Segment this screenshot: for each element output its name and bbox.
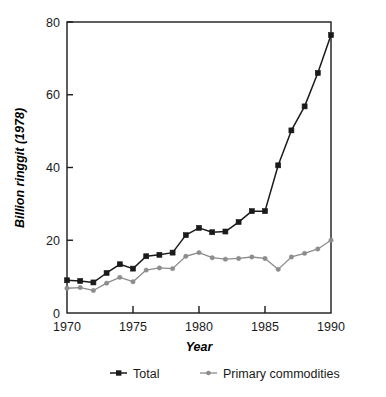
x-tick-label: 1985 — [251, 320, 279, 334]
legend-item-1[interactable]: Total — [110, 367, 159, 381]
data-point-marker — [302, 104, 307, 109]
data-point-marker — [289, 255, 293, 259]
data-point-marker — [236, 220, 241, 225]
data-point-marker — [223, 229, 228, 234]
data-point-marker — [263, 209, 268, 214]
data-point-marker — [78, 278, 83, 283]
chart-legend: TotalPrimary commodities — [110, 367, 340, 381]
data-point-marker — [250, 255, 254, 259]
data-point-marker — [223, 257, 227, 261]
legend-label: Total — [133, 367, 159, 381]
data-point-marker — [118, 275, 122, 279]
data-point-marker — [210, 230, 215, 235]
data-point-marker — [263, 256, 267, 260]
data-point-marker — [144, 254, 149, 259]
data-point-marker — [131, 266, 136, 271]
data-point-marker — [104, 281, 108, 285]
data-point-marker — [91, 280, 96, 285]
data-point-marker — [65, 278, 70, 283]
x-tick-label: 1990 — [317, 320, 345, 334]
chart-container: 020406080 19701975198019851990 Billion r… — [0, 0, 386, 397]
y-tick-label: 0 — [53, 307, 60, 321]
data-point-marker — [289, 128, 294, 133]
data-point-marker — [78, 285, 82, 289]
data-point-marker — [91, 288, 95, 292]
x-tick-label: 1980 — [185, 320, 213, 334]
data-point-marker — [157, 266, 161, 270]
data-point-marker — [65, 286, 69, 290]
data-point-marker — [197, 225, 202, 230]
y-tick-label: 20 — [46, 234, 60, 248]
y-axis-title: Billion ringgit (1978) — [13, 108, 27, 228]
data-point-marker — [117, 262, 122, 267]
data-point-marker — [315, 70, 320, 75]
data-point-marker — [302, 251, 306, 255]
legend-item-2[interactable]: Primary commodities — [200, 367, 340, 381]
plot-area-border — [67, 22, 331, 313]
y-tick-label: 80 — [46, 16, 60, 30]
data-point-marker — [170, 250, 175, 255]
data-point-marker — [183, 233, 188, 238]
data-point-marker — [249, 209, 254, 214]
x-axis-title: Year — [186, 340, 214, 354]
data-point-marker — [197, 250, 201, 254]
line-chart: 020406080 19701975198019851990 Billion r… — [0, 0, 386, 397]
data-point-marker — [329, 33, 334, 38]
x-tick-label: 1970 — [53, 320, 81, 334]
y-tick-label: 40 — [46, 161, 60, 175]
data-point-marker — [329, 238, 333, 242]
plot-frame — [67, 22, 331, 313]
data-point-marker — [276, 163, 281, 168]
data-point-marker — [210, 256, 214, 260]
data-point-marker — [170, 266, 174, 270]
legend-marker — [116, 370, 121, 375]
data-point-marker — [131, 280, 135, 284]
data-point-marker — [184, 254, 188, 258]
data-point-marker — [236, 256, 240, 260]
y-tick-label: 60 — [46, 88, 60, 102]
legend-marker — [206, 371, 211, 376]
data-point-marker — [144, 268, 148, 272]
data-point-marker — [276, 267, 280, 271]
data-point-marker — [104, 270, 109, 275]
x-tick-label: 1975 — [119, 320, 147, 334]
legend-label: Primary commodities — [223, 367, 340, 381]
data-point-marker — [316, 247, 320, 251]
data-point-marker — [157, 252, 162, 257]
